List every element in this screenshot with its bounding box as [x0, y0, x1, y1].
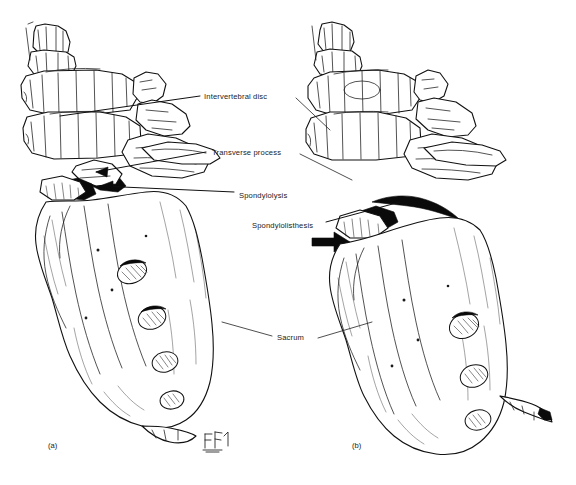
label-spondylolysis: Spondylolysis	[239, 191, 287, 200]
label-transverse-process: Transverse process	[212, 148, 281, 157]
anatomical-illustration: (a)	[0, 0, 576, 485]
panel-b-vertebral-body-L4	[308, 70, 420, 116]
panel-b-caption: (b)	[352, 441, 362, 450]
panel-a-vertebral-body-L4	[21, 68, 137, 115]
panel-a-caption: (a)	[48, 441, 58, 450]
label-sacrum: Sacrum	[277, 333, 304, 342]
panel-b-vertebral-body-L5-slipped	[306, 111, 421, 160]
figure-container: (a)	[0, 0, 576, 485]
label-spondylolisthesis: Spondylolisthesis	[252, 221, 313, 230]
label-intervertebral-disc: Intervertebral disc	[204, 92, 267, 101]
